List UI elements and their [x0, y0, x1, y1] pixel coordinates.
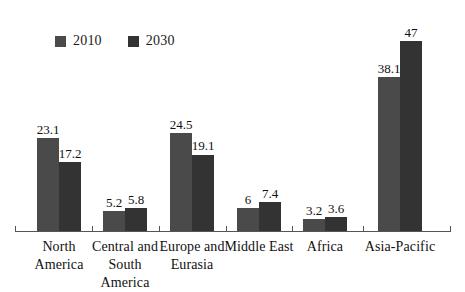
bar [59, 162, 81, 232]
bar-value-label: 19.1 [186, 139, 220, 152]
bar [378, 77, 400, 232]
bar-value-label: 3.6 [319, 202, 353, 215]
bar-chart: 2010 2030 23.117.25.25.824.519.167.43.23… [0, 0, 465, 292]
axis-tick [226, 226, 227, 231]
bar-value-label: 47 [394, 26, 428, 39]
bar [237, 208, 259, 232]
axis-endcap [15, 226, 16, 232]
axis-endcap [450, 226, 451, 232]
category-label-line: Asia-Pacific [352, 238, 448, 256]
category-label-line: Eurasia [144, 256, 240, 274]
bar [325, 217, 347, 232]
bar [259, 202, 281, 232]
axis-tick [92, 226, 93, 231]
category-label-line: America [77, 274, 173, 292]
bar [125, 208, 147, 232]
x-axis-line [15, 231, 450, 232]
axis-tick [363, 226, 364, 231]
bar-value-label: 23.1 [31, 123, 65, 136]
plot-area: 23.117.25.25.824.519.167.43.23.638.147 [0, 0, 465, 232]
bar-value-label: 7.4 [253, 187, 287, 200]
bar [400, 41, 422, 232]
axis-tick [159, 226, 160, 231]
bar [192, 155, 214, 233]
bar-value-label: 24.5 [164, 118, 198, 131]
category-label: Asia-Pacific [352, 238, 448, 256]
bar-value-label: 17.2 [53, 147, 87, 160]
axis-tick [292, 226, 293, 231]
bar-value-label: 5.8 [119, 193, 153, 206]
bar [103, 211, 125, 232]
